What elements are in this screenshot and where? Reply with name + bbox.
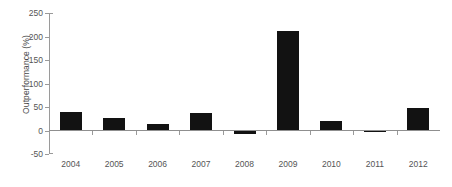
y-axis-cap-bottom: [49, 153, 53, 154]
y-tick-mark: [45, 13, 49, 14]
y-tick-mark: [45, 154, 49, 155]
y-tick-mark: [45, 107, 49, 108]
x-tick-label: 2011: [353, 160, 397, 169]
bar-2007: [190, 113, 212, 131]
x-tick-mark: [353, 131, 354, 135]
x-tick-mark: [223, 131, 224, 135]
x-tick-mark: [266, 131, 267, 135]
x-tick-label: 2004: [49, 160, 93, 169]
bar-2005: [103, 118, 125, 130]
y-tick-label: 250: [3, 9, 43, 18]
y-tick-mark: [45, 84, 49, 85]
x-tick-mark: [136, 131, 137, 135]
x-tick-mark: [92, 131, 93, 135]
x-tick-label: 2010: [309, 160, 353, 169]
y-tick-mark: [45, 131, 49, 132]
y-tick-label: 150: [3, 56, 43, 65]
y-tick-label: 200: [3, 33, 43, 42]
x-tick-label: 2012: [396, 160, 440, 169]
bar-2009: [277, 31, 299, 131]
x-tick-label: 2008: [223, 160, 267, 169]
y-tick-mark: [45, 60, 49, 61]
y-tick-label: 100: [3, 80, 43, 89]
x-tick-label: 2009: [266, 160, 310, 169]
y-tick-label: 50: [3, 103, 43, 112]
x-tick-label: 2005: [92, 160, 136, 169]
y-tick-mark: [45, 37, 49, 38]
x-tick-label: 2007: [179, 160, 223, 169]
x-tick-label: 2006: [136, 160, 180, 169]
y-tick-label: -50: [3, 150, 43, 159]
y-tick-label: 0: [3, 127, 43, 136]
bar-2012: [407, 108, 429, 130]
bar-2006: [147, 124, 169, 130]
bar-2008: [234, 131, 256, 134]
bar-2010: [320, 121, 342, 131]
bar-2004: [60, 112, 82, 130]
x-tick-mark: [179, 131, 180, 135]
y-axis-line: [49, 13, 50, 154]
y-axis-cap-top: [49, 13, 53, 14]
x-tick-mark: [397, 131, 398, 135]
bar-chart: Outperformance (%) 250200150100500-50 20…: [0, 0, 452, 187]
bar-2011: [364, 131, 386, 132]
x-tick-mark: [310, 131, 311, 135]
